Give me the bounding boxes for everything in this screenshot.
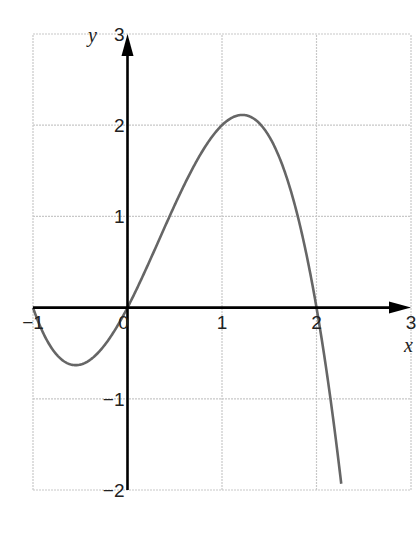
x-tick-label: −1 <box>22 312 44 333</box>
y-tick-label: 2 <box>114 115 125 136</box>
y-tick-label: 3 <box>114 24 125 45</box>
y-tick-label: −2 <box>103 480 125 501</box>
x-tick-label: 3 <box>406 312 417 333</box>
x-tick-label: 1 <box>217 312 228 333</box>
grid-lines <box>33 34 411 490</box>
tick-labels: −10123321−1−2 <box>22 24 416 501</box>
y-tick-label: 1 <box>114 206 125 227</box>
x-tick-label: 0 <box>118 312 129 333</box>
x-tick-label: 2 <box>311 312 322 333</box>
x-axis-label: x <box>403 334 413 356</box>
function-graph: −10123321−1−2 x y <box>0 0 418 537</box>
y-tick-label: −1 <box>103 389 125 410</box>
function-curve <box>33 115 341 484</box>
y-axis-label: y <box>86 24 97 47</box>
